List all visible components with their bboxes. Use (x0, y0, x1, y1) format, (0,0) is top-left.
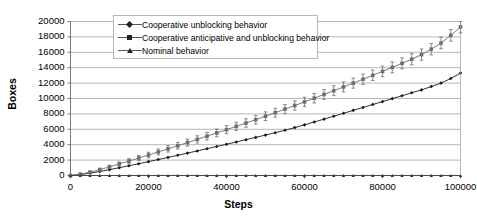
legend-item-label: Cooperative unblocking behavior (142, 20, 267, 30)
x-tick-label: 40000 (197, 182, 257, 192)
y-tick-label: 0 (19, 170, 65, 180)
triangle-marker-icon (118, 45, 142, 56)
legend-item-label: Cooperative anticipative and unblocking … (142, 33, 329, 43)
x-tick-label: 0 (41, 182, 101, 192)
y-tick-label: 4000 (19, 139, 65, 149)
y-tick-label: 10000 (19, 93, 65, 103)
x-tick-label: 20000 (119, 182, 179, 192)
y-tick-label: 20000 (19, 16, 65, 26)
y-tick-label: 18000 (19, 31, 65, 41)
y-tick-label: 12000 (19, 78, 65, 88)
x-tick-label: 100000 (431, 182, 477, 192)
x-tick-label: 80000 (353, 182, 413, 192)
diamond-marker-icon (118, 19, 142, 30)
legend-item-label: Nominal behavior (142, 46, 209, 56)
y-tick-label: 6000 (19, 124, 65, 134)
legend-item-nominal: Nominal behavior (118, 44, 209, 57)
y-tick-label: 8000 (19, 108, 65, 118)
legend-item-cooperative-unblocking: Cooperative unblocking behavior (118, 18, 267, 31)
y-tick-label: 14000 (19, 62, 65, 72)
square-marker-icon (118, 32, 142, 43)
chart-legend: Cooperative unblocking behavior Cooperat… (113, 15, 318, 59)
x-axis-title: Steps (0, 198, 477, 210)
legend-item-cooperative-anticipative: Cooperative anticipative and unblocking … (118, 31, 329, 44)
x-tick-label: 60000 (275, 182, 335, 192)
y-tick-label: 16000 (19, 47, 65, 57)
y-tick-label: 2000 (19, 155, 65, 165)
chart-container: 0200040006000800010000120001400016000180… (0, 0, 477, 222)
y-axis-title: Boxes (6, 64, 18, 124)
